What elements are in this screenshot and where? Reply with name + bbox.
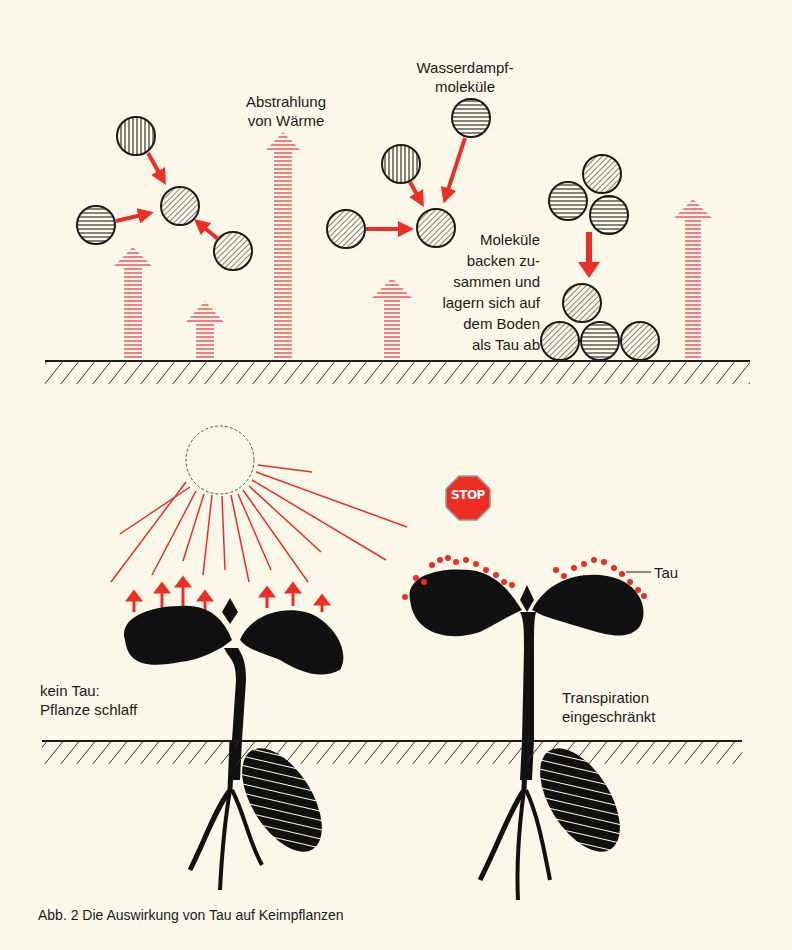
label-water-vapor: Wasserdampf- moleküle (400, 58, 530, 96)
label-dew: Tau (654, 563, 678, 582)
bottom-panel (42, 426, 742, 900)
figure-caption: Abb. 2 Die Auswirkung von Tau auf Keimpf… (38, 906, 344, 925)
label-transpiration: Transpiration eingeschränkt (562, 688, 655, 726)
molecule-cluster-middle (327, 99, 490, 248)
sun-icon (186, 426, 254, 494)
label-radiation: Abstrahlung von Wärme (226, 92, 346, 130)
label-molecules-deposit: Moleküle backen zu- sammen und lagern si… (410, 229, 540, 355)
top-panel (45, 99, 750, 384)
label-no-dew: kein Tau: Pflanze schlaff (40, 681, 137, 719)
molecule-clump-air (549, 155, 628, 234)
molecule-cluster-left (77, 117, 252, 270)
down-arrow-deposit (578, 232, 600, 278)
dew-molecules-ground (541, 284, 659, 360)
ground-line-top (45, 361, 750, 384)
sun-rays (111, 465, 407, 582)
stop-sign-text: STOP (446, 488, 490, 502)
ground-line-bottom (42, 741, 742, 764)
diagram-canvas (0, 0, 792, 950)
